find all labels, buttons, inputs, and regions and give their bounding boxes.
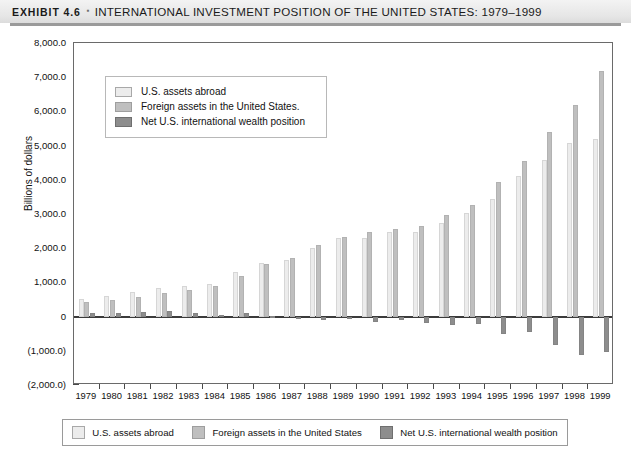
chart-bar — [182, 286, 187, 317]
chart-bar — [393, 229, 398, 317]
inner-legend-label: U.S. assets abroad — [141, 86, 226, 97]
chart-bar — [136, 297, 141, 317]
legend-swatch-icon — [380, 426, 393, 439]
bottom-legend-item: U.S. assets abroad — [72, 426, 174, 439]
chart-bar — [167, 311, 172, 316]
chart-bar — [233, 272, 238, 316]
chart-bar — [162, 293, 167, 317]
bottom-legend-item: Foreign assets in the United States — [192, 426, 361, 439]
chart-bar — [424, 317, 429, 323]
chart-bar — [522, 161, 527, 317]
chart-bar — [579, 317, 584, 355]
y-axis-tick-label: 3,000.0 — [6, 208, 66, 219]
chart-bar — [490, 199, 495, 316]
chart-inner-legend: U.S. assets abroadForeign assets in the … — [105, 76, 327, 138]
x-axis-tick-mark — [356, 384, 357, 389]
chart-bar — [516, 176, 521, 317]
bottom-legend-label: Net U.S. international wealth position — [400, 427, 557, 438]
y-axis-tick-label: 6,000.0 — [6, 105, 66, 116]
bottom-legend-item: Net U.S. international wealth position — [380, 426, 557, 439]
chart-bar — [259, 263, 264, 317]
chart-bar — [387, 232, 392, 316]
chart-bar — [219, 315, 224, 317]
chart-bar — [104, 296, 109, 317]
inner-legend-label: Foreign assets in the United States. — [141, 101, 299, 112]
chart-bar — [336, 238, 341, 317]
x-axis-tick-mark — [176, 384, 177, 389]
legend-swatch-icon — [115, 87, 132, 97]
x-axis-tick-mark — [433, 384, 434, 389]
chart-bar — [116, 313, 121, 317]
chart-bar — [207, 284, 212, 317]
inner-legend-label: Net U.S. international wealth position — [141, 116, 305, 127]
chart-bar — [141, 312, 146, 317]
x-axis-tick-mark — [304, 384, 305, 389]
exhibit-title: INTERNATIONAL INVESTMENT POSITION OF THE… — [95, 5, 542, 18]
y-axis-tick-label: 1,000.0 — [6, 276, 66, 287]
chart-bar — [362, 238, 367, 317]
y-axis-tick-label: 7,000.0 — [6, 71, 66, 82]
chart-bar — [501, 317, 506, 335]
chart-bar — [444, 215, 449, 317]
x-axis-tick-mark — [459, 384, 460, 389]
chart-bar — [296, 317, 301, 319]
legend-swatch-icon — [192, 426, 205, 439]
inner-legend-item: Foreign assets in the United States. — [115, 99, 317, 114]
chart-bar — [342, 237, 347, 317]
chart-bar — [264, 264, 269, 317]
y-axis-tick-label: 8,000.0 — [6, 37, 66, 48]
chart-bar — [90, 313, 95, 316]
x-axis-tick-mark — [536, 384, 537, 389]
x-axis-tick-mark — [253, 384, 254, 389]
chart-bar — [110, 300, 115, 317]
chart-bar — [310, 248, 315, 316]
y-axis-tick-label: 5,000.0 — [6, 139, 66, 150]
chart-bar — [213, 286, 218, 317]
x-axis-tick-mark — [150, 384, 151, 389]
chart-bar — [464, 213, 469, 317]
legend-swatch-icon — [115, 102, 132, 112]
bullet-separator-icon: ▪ — [87, 6, 90, 15]
chart-bar — [399, 317, 404, 320]
chart-bar — [284, 260, 289, 316]
chart-bar — [187, 290, 192, 317]
x-axis-tick-mark — [279, 384, 280, 389]
chart-bar — [476, 317, 481, 325]
exhibit-number: EXHIBIT 4.6 — [12, 6, 81, 18]
chart-bar — [439, 223, 444, 317]
inner-legend-item: U.S. assets abroad — [115, 84, 317, 99]
chart-bottom-legend: U.S. assets abroadForeign assets in the … — [62, 419, 568, 446]
header-divider — [10, 23, 621, 26]
x-axis-tick-mark — [124, 384, 125, 389]
chart-bar — [84, 302, 89, 316]
chart-bar — [316, 245, 321, 317]
chart-bar — [367, 232, 372, 316]
y-axis-tick-mark — [73, 384, 79, 385]
chart-bar — [547, 132, 552, 317]
y-axis-tick-label: 0 — [6, 310, 66, 321]
bottom-legend-label: U.S. assets abroad — [92, 427, 174, 438]
chart-bar — [244, 313, 249, 316]
chart-bar — [270, 316, 275, 318]
x-axis-tick-mark — [587, 384, 588, 389]
chart-bar — [593, 139, 598, 316]
chart-bar — [604, 317, 609, 352]
bottom-legend-label: Foreign assets in the United States — [212, 427, 361, 438]
chart-bar — [450, 317, 455, 325]
chart-bar — [553, 317, 558, 345]
chart-bar — [573, 105, 578, 317]
chart-bar — [347, 317, 352, 319]
chart-bar — [79, 299, 84, 316]
chart-bar — [156, 288, 161, 317]
chart-bar — [373, 317, 378, 322]
x-axis-tick-mark — [99, 384, 100, 389]
x-axis-tick-mark — [407, 384, 408, 389]
x-axis-tick-mark — [484, 384, 485, 389]
chart-bar — [567, 143, 572, 317]
chart-bar — [413, 232, 418, 316]
y-axis-tick-label: 4,000.0 — [6, 173, 66, 184]
legend-swatch-icon — [115, 117, 132, 127]
chart-bar — [239, 276, 244, 317]
exhibit-header: EXHIBIT 4.6 ▪ INTERNATIONAL INVESTMENT P… — [0, 0, 631, 23]
x-axis-tick-mark — [510, 384, 511, 389]
